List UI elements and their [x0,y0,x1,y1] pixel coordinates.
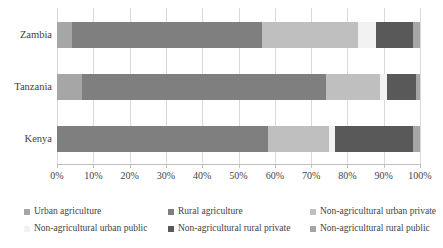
category-label-tanzania: Tanzania [0,74,52,100]
bar-zambia [57,22,420,48]
legend-item-non-agricultural-rural-private[interactable]: Non-agricultural rural private [168,220,310,237]
x-tick-label: 50% [229,169,247,183]
bar-segment-tanzania-3 [380,74,387,100]
tickmark-40pct [202,164,203,168]
legend-label: Non-agricultural urban private [320,203,436,220]
x-tick-label: 10% [84,169,102,183]
legend-item-non-agricultural-urban-private[interactable]: Non-agricultural urban private [310,203,434,220]
legend-label: Non-agricultural urban public [34,220,147,237]
x-tick-label: 60% [266,169,284,183]
bar-segment-kenya-2 [268,126,330,152]
tickmark-80pct [347,164,348,168]
bar-segment-zambia-5 [413,22,420,48]
tickmark-20pct [130,164,131,168]
tickmark-90pct [384,164,385,168]
legend-label: Rural agriculture [178,203,243,220]
tickmark-10pct [93,164,94,168]
legend-swatch-icon [168,209,174,215]
bar-segment-zambia-4 [376,22,412,48]
bar-segment-zambia-1 [72,22,263,48]
x-tick-label: 0% [50,169,63,183]
bar-segment-tanzania-0 [57,74,82,100]
tickmark-70pct [311,164,312,168]
x-tick-label: 30% [157,169,175,183]
legend-item-non-agricultural-urban-public[interactable]: Non-agricultural urban public [24,220,168,237]
x-tick-label: 80% [338,169,356,183]
x-tick-label: 70% [302,169,320,183]
gridline-100pct [420,8,421,164]
x-tick-label: 100% [408,169,431,183]
category-axis: ZambiaTanzaniaKenya [0,8,52,164]
x-tick-label: 40% [193,169,211,183]
tickmark-30pct [166,164,167,168]
legend-item-urban-agriculture[interactable]: Urban agriculture [24,203,168,220]
bar-segment-zambia-2 [262,22,358,48]
legend-item-non-agricultural-rural-public[interactable]: Non-agricultural rural public [310,220,434,237]
x-tick-label: 20% [120,169,138,183]
bar-kenya [57,126,420,152]
legend-item-rural-agriculture[interactable]: Rural agriculture [168,203,310,220]
legend-label: Non-agricultural rural private [178,220,290,237]
legend-label: Urban agriculture [34,203,101,220]
legend-swatch-icon [310,209,316,215]
legend-swatch-icon [310,226,316,232]
bar-segment-tanzania-5 [416,74,420,100]
legend-swatch-icon [168,226,174,232]
bar-segment-kenya-5 [413,126,420,152]
bar-tanzania [57,74,420,100]
bar-segment-tanzania-2 [326,74,380,100]
x-axis-tickmarks [57,164,421,168]
x-tick-label: 90% [375,169,393,183]
tickmark-60pct [275,164,276,168]
bar-segment-zambia-0 [57,22,72,48]
chart-legend: Urban agricultureRural agricultureNon-ag… [24,203,434,237]
legend-row: Urban agricultureRural agricultureNon-ag… [24,203,434,220]
tickmark-0pct [57,164,58,168]
legend-swatch-icon [24,226,30,232]
category-label-zambia: Zambia [0,22,52,48]
bar-segment-tanzania-4 [387,74,416,100]
bar-segment-tanzania-1 [82,74,325,100]
plot-area [57,8,420,164]
bar-segment-zambia-3 [358,22,376,48]
legend-swatch-icon [24,209,30,215]
stacked-bar-chart: ZambiaTanzaniaKenya 0%10%20%30%40%50%60%… [0,0,443,248]
legend-row: Non-agricultural urban publicNon-agricul… [24,220,434,237]
category-label-kenya: Kenya [0,126,52,152]
tickmark-50pct [239,164,240,168]
legend-label: Non-agricultural rural public [320,220,430,237]
x-axis-tick-labels: 0%10%20%30%40%50%60%70%80%90%100% [57,169,421,183]
bar-segment-kenya-4 [335,126,413,152]
bar-segment-kenya-1 [57,126,268,152]
tickmark-100pct [420,164,421,168]
